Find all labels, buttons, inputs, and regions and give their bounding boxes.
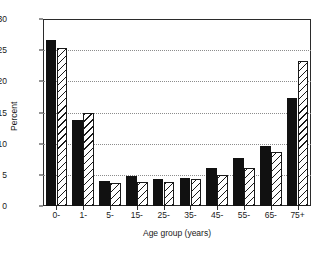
x-tick-label-25-: 25- xyxy=(157,211,169,220)
x-tick-label-1-: 1- xyxy=(79,211,87,220)
bar-55-s1 xyxy=(233,158,244,206)
bar-1-s2 xyxy=(83,113,94,206)
x-tick-label-0-: 0- xyxy=(53,211,61,220)
bar-5-s2 xyxy=(110,183,121,206)
bar-55-s2 xyxy=(244,168,255,206)
y-tick-mark-25 xyxy=(39,50,43,51)
bar-0-s2 xyxy=(57,48,68,206)
bar-45-s2 xyxy=(217,175,228,206)
x-axis-title: Age group (years) xyxy=(43,229,311,238)
bar-65-s1 xyxy=(260,146,271,206)
x-tick-label-55-: 55- xyxy=(238,211,250,220)
bar-25-s1 xyxy=(153,179,164,206)
x-tick-label-75+: 75+ xyxy=(290,211,304,220)
bar-75plus-s1 xyxy=(287,98,298,206)
x-tick-label-45-: 45- xyxy=(211,211,223,220)
x-tick-label-15-: 15- xyxy=(131,211,143,220)
bar-35-s1 xyxy=(180,178,191,206)
y-tick-mark-20 xyxy=(39,81,43,82)
y-tick-mark-5 xyxy=(39,174,43,175)
y-axis: 051015202530 xyxy=(0,0,43,253)
y-tick-label-20: 20 xyxy=(0,77,7,86)
bar-25-s2 xyxy=(164,182,175,206)
bar-35-s2 xyxy=(191,179,202,206)
bar-0-s1 xyxy=(46,40,57,206)
bars-layer xyxy=(43,19,311,206)
x-tick-label-65-: 65- xyxy=(265,211,277,220)
bar-15-s1 xyxy=(126,176,137,206)
y-tick-mark-0 xyxy=(39,206,43,207)
y-tick-label-0: 0 xyxy=(2,202,7,211)
bar-45-s1 xyxy=(206,168,217,206)
y-tick-mark-30 xyxy=(39,19,43,20)
bar-chart-figure: 051015202530 Percent 0-1-5-15-25-35-45-5… xyxy=(0,0,328,253)
y-tick-label-10: 10 xyxy=(0,139,7,148)
y-tick-mark-10 xyxy=(39,143,43,144)
y-tick-label-30: 30 xyxy=(0,15,7,24)
y-tick-label-5: 5 xyxy=(2,171,7,180)
y-tick-label-15: 15 xyxy=(0,108,7,117)
x-tick-label-35-: 35- xyxy=(184,211,196,220)
bar-65-s2 xyxy=(271,152,282,206)
x-tick-label-5-: 5- xyxy=(106,211,114,220)
bar-15-s2 xyxy=(137,182,148,206)
y-tick-mark-15 xyxy=(39,112,43,113)
y-tick-label-25: 25 xyxy=(0,46,7,55)
bar-1-s1 xyxy=(72,120,83,206)
y-axis-title: Percent xyxy=(10,76,19,156)
bar-75plus-s2 xyxy=(298,61,309,206)
bar-5-s1 xyxy=(99,181,110,206)
